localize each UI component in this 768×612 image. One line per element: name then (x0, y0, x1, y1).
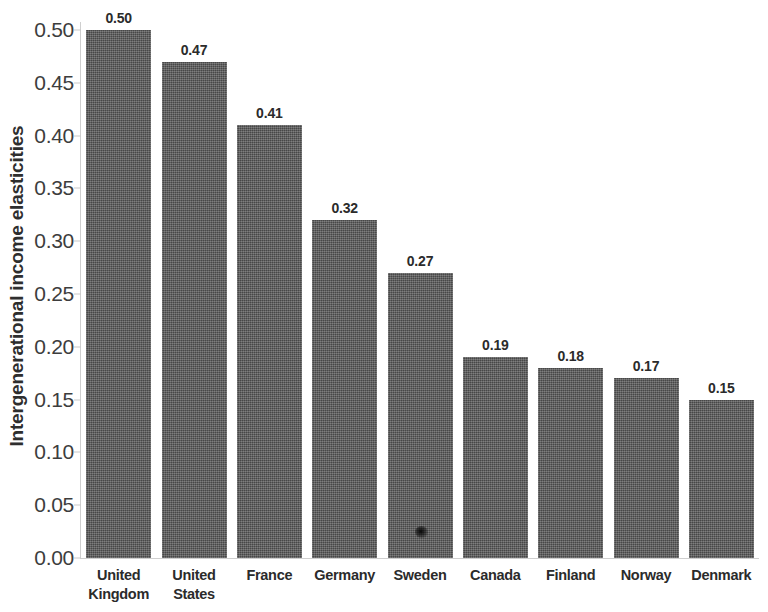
bar-value-label: 0.19 (482, 337, 508, 353)
y-axis-tick-label: 0.15 (22, 388, 74, 412)
y-axis-tick-label: 0.35 (22, 176, 74, 200)
bar[interactable] (463, 357, 528, 558)
bar-value-label: 0.41 (256, 105, 282, 121)
y-axis-tick-mark (74, 346, 81, 347)
bar-value-label: 0.50 (105, 10, 131, 26)
y-axis-tick-label: 0.05 (22, 493, 74, 517)
y-axis-tick-mark (74, 135, 81, 136)
y-axis-tick-label: 0.30 (22, 229, 74, 253)
bar[interactable] (388, 273, 453, 558)
bar[interactable] (689, 400, 754, 558)
bar-group[interactable]: 0.41France (237, 0, 302, 558)
y-axis-tick-mark (74, 505, 81, 506)
bar[interactable] (538, 368, 603, 558)
bar-group[interactable]: 0.19Canada (463, 0, 528, 558)
bar-group[interactable]: 0.50UnitedKingdom (86, 0, 151, 558)
y-axis-tick-mark (74, 452, 81, 453)
bar-group[interactable]: 0.17Norway (614, 0, 679, 558)
y-axis-tick-label: 0.20 (22, 335, 74, 359)
bar-group[interactable]: 0.15Denmark (689, 0, 754, 558)
y-axis-tick-mark (74, 294, 81, 295)
bar-value-label: 0.47 (181, 42, 207, 58)
y-axis-tick-label: 0.10 (22, 440, 74, 464)
y-axis-tick-mark (74, 82, 81, 83)
x-axis-category-line: Denmark (673, 566, 768, 585)
bar-group[interactable]: 0.32Germany (312, 0, 377, 558)
y-axis-tick-mark (74, 558, 81, 559)
bar-value-label: 0.17 (633, 358, 659, 374)
y-axis-tick-mark (74, 399, 81, 400)
plot-area: 0.50UnitedKingdom0.47UnitedStates0.41Fra… (81, 0, 759, 612)
y-axis-tick-label: 0.00 (22, 546, 74, 570)
y-axis-tick-label: 0.40 (22, 124, 74, 148)
bar-value-label: 0.32 (331, 200, 357, 216)
bar-group[interactable]: 0.18Finland (538, 0, 603, 558)
x-axis-category-label: Denmark (673, 566, 768, 585)
bar-value-label: 0.15 (708, 380, 734, 396)
y-axis-tick-label: 0.45 (22, 71, 74, 95)
bar[interactable] (237, 125, 302, 558)
y-axis-tick-mark (74, 241, 81, 242)
y-axis-tick-labels: 0.000.050.100.150.200.250.300.350.400.45… (22, 0, 74, 612)
y-axis-tick-mark (74, 188, 81, 189)
bar[interactable] (162, 62, 227, 558)
y-axis-tick-label: 0.25 (22, 282, 74, 306)
bar-value-label: 0.18 (557, 348, 583, 364)
bar-group[interactable]: 0.47UnitedStates (162, 0, 227, 558)
bar[interactable] (614, 378, 679, 558)
bar[interactable] (312, 220, 377, 558)
y-axis-tick-label: 0.50 (22, 18, 74, 42)
bar-group[interactable]: 0.27Sweden (388, 0, 453, 558)
x-axis-category-line: States (146, 585, 242, 604)
bar-value-label: 0.27 (407, 253, 433, 269)
y-axis-tick-mark (74, 30, 81, 31)
bar[interactable] (86, 30, 151, 558)
bar-chart: Intergenerational income elasticities 0.… (0, 0, 768, 612)
